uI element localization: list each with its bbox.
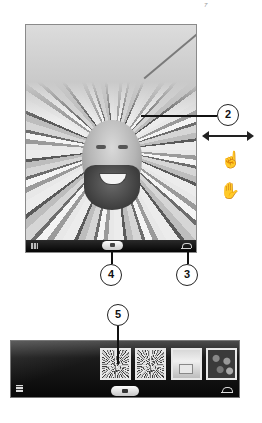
page-marker: 7 (204, 2, 207, 8)
callout-2-leader (141, 115, 217, 117)
effects-grid-icon[interactable] (31, 243, 38, 249)
camera-icon (122, 389, 128, 393)
callout-label: 5 (115, 308, 121, 320)
callout-5: 5 (107, 304, 129, 326)
effects-toggle-icon[interactable] (181, 243, 191, 249)
ceiling (26, 25, 196, 120)
subject-beard (84, 165, 140, 210)
thumbnail-2[interactable] (135, 348, 166, 380)
callout-4: 4 (100, 264, 122, 286)
thumbnail-1[interactable] (100, 348, 131, 380)
callout-5-leader (117, 326, 119, 364)
callout-4-leader (111, 251, 113, 264)
effects-grid-icon[interactable] (16, 385, 23, 392)
double-tap-icon: ✋ (220, 183, 240, 199)
thumbnail-4[interactable] (206, 348, 237, 380)
camera-icon (110, 243, 115, 247)
swipe-horizontal-icon (207, 135, 249, 137)
callout-2: 2 (217, 104, 239, 126)
thumbnail-3[interactable] (171, 348, 202, 380)
callout-label: 2 (225, 108, 231, 120)
eye (118, 145, 128, 149)
effects-toggle-icon[interactable] (221, 387, 233, 393)
camera-preview[interactable] (25, 24, 197, 253)
thumbnail-strip (10, 340, 240, 398)
camera-button[interactable] (102, 241, 123, 250)
callout-3-leader (187, 251, 189, 264)
callout-3: 3 (176, 264, 198, 286)
tap-icon: ☝ (221, 152, 241, 168)
eye (96, 145, 106, 149)
camera-button[interactable] (111, 386, 139, 396)
callout-label: 4 (108, 268, 114, 280)
callout-label: 3 (184, 268, 190, 280)
